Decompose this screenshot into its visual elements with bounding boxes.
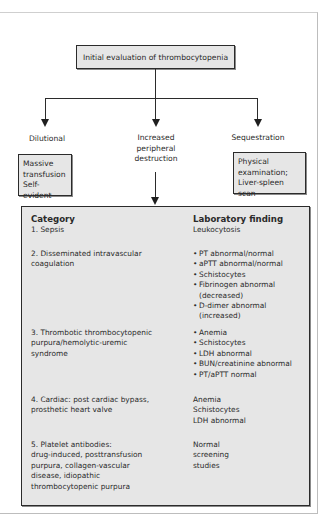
branch-horizontal-line bbox=[45, 98, 258, 99]
dilutional-box: Massive transfusion Self-evident bbox=[18, 154, 72, 196]
finding-header: Laboratory finding bbox=[193, 214, 308, 225]
box-line: transfusion bbox=[23, 170, 67, 181]
branch-dilutional-label: Dilutional bbox=[22, 134, 72, 145]
arrow-down-icon bbox=[151, 197, 159, 205]
category-header: Category bbox=[31, 214, 181, 225]
branch-sequestration-label: Sequestration bbox=[228, 133, 288, 144]
sequestration-box: Physical examination; Liver-spleen scan bbox=[233, 152, 306, 194]
arrow-down-icon bbox=[254, 119, 262, 127]
box-line: Massive bbox=[23, 159, 67, 170]
arrow-down-icon bbox=[152, 119, 160, 127]
title-stem-line bbox=[155, 68, 156, 121]
box-line: examination; bbox=[238, 168, 301, 179]
branch-destruction-label: Increased peripheral destruction bbox=[125, 133, 187, 165]
arrow-down-icon bbox=[41, 119, 49, 127]
category-table-box: Category Laboratory finding 1. Sepsis Le… bbox=[21, 206, 310, 506]
title-text: Initial evaluation of thrombocytopenia bbox=[83, 53, 228, 62]
left-branch-line bbox=[45, 98, 46, 120]
right-branch-line bbox=[257, 98, 258, 120]
title-box: Initial evaluation of thrombocytopenia bbox=[76, 45, 235, 69]
box-line: Physical bbox=[238, 157, 301, 168]
box-line: Self-evident bbox=[23, 180, 67, 201]
box-line: Liver-spleen scan bbox=[238, 178, 301, 199]
destruction-stem-line bbox=[155, 172, 156, 198]
